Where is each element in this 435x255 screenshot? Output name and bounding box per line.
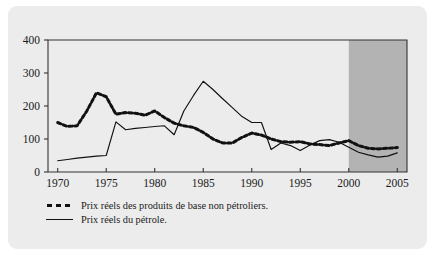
svg-text:2005: 2005 (386, 177, 409, 189)
svg-text:200: 200 (23, 100, 41, 112)
data-series (58, 81, 398, 161)
svg-text:1995: 1995 (289, 177, 312, 189)
svg-text:0: 0 (34, 166, 40, 178)
svg-text:100: 100 (23, 133, 41, 145)
dashed-line-icon (44, 199, 74, 211)
legend-label-oil: Prix réels du pétrole. (81, 213, 167, 226)
svg-text:1970: 1970 (46, 177, 69, 189)
series-line (58, 93, 398, 149)
legend-item-nonoil: Prix réels des produits de base non pétr… (44, 198, 374, 212)
svg-text:1985: 1985 (192, 177, 215, 189)
svg-text:1990: 1990 (240, 177, 263, 189)
svg-text:1975: 1975 (95, 177, 118, 189)
legend-label-nonoil: Prix réels des produits de base non pétr… (81, 199, 268, 212)
chart-legend: Prix réels des produits de base non pétr… (44, 198, 374, 226)
y-axis-ticks: 0100200300400 (23, 34, 48, 178)
legend-item-oil: Prix réels du pétrole. (44, 212, 374, 226)
series-line (58, 81, 398, 161)
svg-text:400: 400 (23, 34, 41, 46)
svg-text:300: 300 (23, 67, 41, 79)
solid-line-icon (44, 213, 74, 225)
svg-text:2000: 2000 (337, 177, 360, 189)
svg-text:1980: 1980 (143, 177, 166, 189)
figure-root: 0100200300400 19701975198019851990199520… (0, 0, 435, 255)
